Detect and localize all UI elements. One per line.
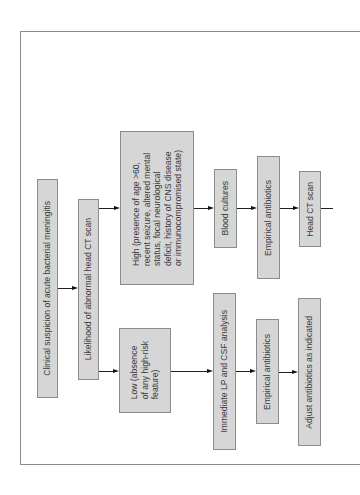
arrow-line (99, 371, 114, 372)
node-blood-cultures: Blood cultures (214, 169, 237, 248)
arrow-line-continuation (321, 208, 333, 209)
arrow-line (194, 208, 208, 209)
arrow-line (58, 288, 73, 289)
node-label: Adjust antibiotics as indicated (304, 316, 315, 429)
arrow-head-icon (293, 206, 299, 210)
arrow-head-icon (113, 369, 119, 373)
node-label: Likelihood of abnormal head CT scan (83, 218, 94, 360)
arrow-head-icon (72, 286, 78, 290)
node-likelihood-abnormal-ct: Likelihood of abnormal head CT scan (78, 199, 99, 380)
node-clinical-suspicion: Clinical suspicion of acute bacterial me… (37, 179, 58, 398)
arrow-head-icon (250, 369, 256, 373)
arrow-line (236, 371, 250, 372)
arrow-line (280, 208, 293, 209)
arrow-head-icon (292, 370, 298, 374)
node-head-ct-scan: Head CT scan (299, 171, 321, 247)
arrow-line (99, 208, 115, 209)
node-adjust-antibiotics: Adjust antibiotics as indicated (298, 298, 321, 446)
arrow-head-icon (114, 206, 120, 210)
node-label: Clinical suspicion of acute bacterial me… (42, 201, 53, 376)
arrow-head-icon (208, 206, 214, 210)
arrow-head-icon (251, 206, 257, 210)
node-label: High (presence of age >60, recent seizur… (131, 150, 184, 266)
arrow-head-icon (207, 369, 213, 373)
node-empirical-antibiotics-high: Empirical antibiotics (257, 156, 280, 279)
node-label: Low (absence of any high-risk feature) (129, 341, 161, 399)
node-immediate-lp: Immediate LP and CSF analysis (213, 293, 236, 450)
node-empirical-antibiotics-low: Empirical antibiotics (256, 319, 279, 424)
node-label: Empirical antibiotics (262, 334, 273, 410)
node-low-risk: Low (absence of any high-risk feature) (119, 328, 171, 413)
arrow-line (171, 371, 207, 372)
node-label: Immediate LP and CSF analysis (219, 310, 230, 433)
arrow-line (237, 208, 251, 209)
node-label: Head CT scan (305, 182, 316, 237)
node-label: Empirical antibiotics (263, 180, 274, 256)
arrow-line (279, 372, 292, 373)
node-label: Blood cultures (220, 181, 231, 235)
node-high-risk: High (presence of age >60, recent seizur… (120, 131, 194, 285)
